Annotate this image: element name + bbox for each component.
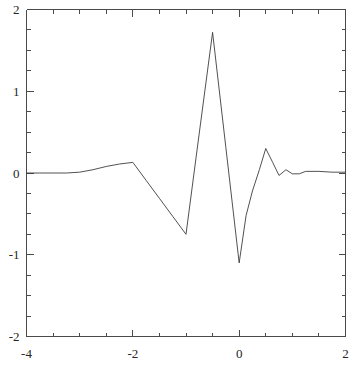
y-tick-label: -2 [9,329,20,344]
y-tick-label: 0 [13,166,20,181]
chart-figure: -4-202 -2-1012 [0,0,356,373]
y-tick-label: 2 [13,2,20,17]
x-tick-label: 2 [342,346,349,361]
y-tick-label: -1 [9,247,20,262]
x-tick-label: 0 [236,346,243,361]
chart-background [0,0,356,373]
line-chart: -4-202 -2-1012 [0,0,356,373]
x-tick-label: -4 [21,346,32,361]
x-tick-label: -2 [127,346,138,361]
y-tick-label: 1 [13,84,20,99]
